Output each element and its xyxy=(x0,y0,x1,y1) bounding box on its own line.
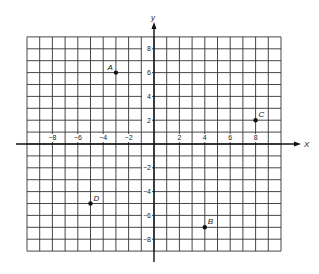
point-c-label: C xyxy=(259,110,265,119)
x-tick-label: −2 xyxy=(125,134,133,141)
y-tick-label: −6 xyxy=(143,212,151,219)
axes: Xy xyxy=(16,13,310,262)
point-a-marker xyxy=(114,70,118,74)
point-a-label: A xyxy=(107,63,113,72)
x-tick-label: −8 xyxy=(48,134,56,141)
y-tick-label: −2 xyxy=(143,164,151,171)
point-b-label: B xyxy=(208,217,214,226)
y-tick-label: 4 xyxy=(147,93,151,100)
y-axis-arrow-icon xyxy=(152,22,157,29)
point-c-marker xyxy=(253,118,257,122)
point-b-marker xyxy=(203,225,207,229)
data-points: ABCD xyxy=(88,63,265,230)
y-tick-label: 6 xyxy=(147,69,151,76)
x-tick-label: −4 xyxy=(99,134,107,141)
y-tick-label: −4 xyxy=(143,188,151,195)
y-tick-label: 8 xyxy=(147,45,151,52)
y-axis-label: y xyxy=(150,13,156,22)
x-tick-label: 8 xyxy=(254,134,258,141)
x-axis-label: X xyxy=(303,140,310,149)
y-tick-label: −8 xyxy=(143,236,151,243)
x-tick-label: −6 xyxy=(74,134,82,141)
coordinate-plane: Xy −8−6−4−224688642−2−4−6−8 ABCD xyxy=(0,0,319,274)
y-tick-label: 2 xyxy=(147,117,151,124)
x-tick-label: 6 xyxy=(228,134,232,141)
x-tick-label: 2 xyxy=(177,134,181,141)
point-d-marker xyxy=(88,201,92,205)
x-axis-arrow-icon xyxy=(294,142,301,147)
x-tick-label: 4 xyxy=(203,134,207,141)
point-d-label: D xyxy=(94,194,100,203)
